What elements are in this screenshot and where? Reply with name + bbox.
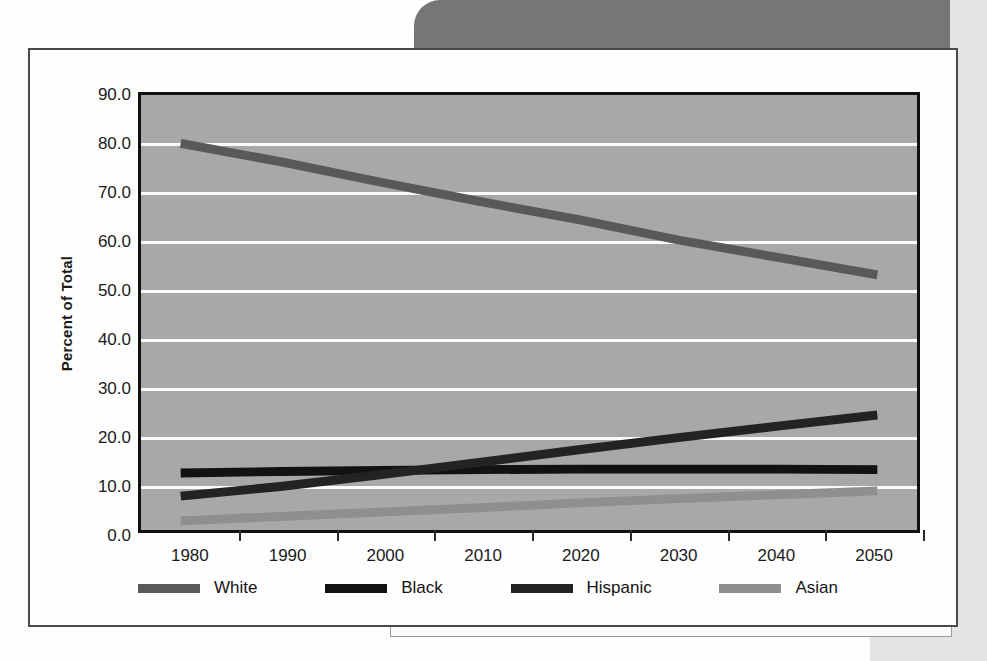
- y-axis-tick-label: 50.0: [45, 281, 131, 301]
- x-axis-tick-mark: [630, 530, 632, 541]
- chart-legend: WhiteBlackHispanicAsian: [138, 578, 838, 598]
- x-axis-tick-mark: [239, 530, 241, 541]
- y-axis-tick-label: 70.0: [45, 183, 131, 203]
- legend-swatch-black: [325, 584, 387, 593]
- legend-item-white[interactable]: White: [138, 578, 257, 598]
- legend-item-hispanic[interactable]: Hispanic: [511, 578, 652, 598]
- x-axis-tick-mark: [434, 530, 436, 541]
- y-axis-tick-label: 10.0: [45, 477, 131, 497]
- x-axis-tick-label: 1990: [269, 546, 307, 566]
- chart-figure: Percent of Total 0.010.020.030.040.050.0…: [30, 50, 960, 629]
- x-axis-tick-label: 2010: [464, 546, 502, 566]
- x-axis-tick-mark: [825, 530, 827, 541]
- y-axis-tick-label: 20.0: [45, 428, 131, 448]
- x-axis-tick-label: 2050: [855, 546, 893, 566]
- plot-inner: [141, 95, 917, 530]
- screenshot-root: Percent of Total 0.010.020.030.040.050.0…: [0, 0, 987, 661]
- legend-label: Asian: [795, 578, 838, 598]
- legend-swatch-hispanic: [511, 584, 573, 593]
- y-axis-tick-label: 40.0: [45, 330, 131, 350]
- series-lines: [141, 95, 917, 530]
- legend-swatch-white: [138, 584, 200, 593]
- x-axis-tick-mark: [337, 530, 339, 541]
- x-axis-tick-label: 2040: [757, 546, 795, 566]
- series-line-hispanic: [181, 415, 878, 496]
- y-axis-tick-label: 30.0: [45, 379, 131, 399]
- x-axis-tick-mark: [532, 530, 534, 541]
- y-axis-tick-label: 60.0: [45, 232, 131, 252]
- x-axis-tick-label: 2000: [366, 546, 404, 566]
- y-axis-tick-label: 0.0: [45, 526, 131, 546]
- legend-label: White: [214, 578, 257, 598]
- y-axis-tick-label: 90.0: [45, 85, 131, 105]
- y-axis-tick-label: 80.0: [45, 134, 131, 154]
- series-line-white: [181, 143, 878, 274]
- x-axis-tick-label: 2020: [562, 546, 600, 566]
- series-line-black: [181, 469, 878, 473]
- x-axis-tick-mark: [728, 530, 730, 541]
- plot-area: 0.010.020.030.040.050.060.070.080.090.0 …: [138, 92, 920, 533]
- x-axis-tick-label: 2030: [660, 546, 698, 566]
- chart-card: Percent of Total 0.010.020.030.040.050.0…: [28, 48, 958, 627]
- x-axis-tick-label: 1980: [171, 546, 209, 566]
- legend-label: Black: [401, 578, 443, 598]
- legend-label: Hispanic: [587, 578, 652, 598]
- legend-item-asian[interactable]: Asian: [719, 578, 838, 598]
- series-line-asian: [181, 491, 878, 521]
- x-axis-tick-mark: [923, 530, 925, 541]
- legend-item-black[interactable]: Black: [325, 578, 443, 598]
- legend-swatch-asian: [719, 584, 781, 593]
